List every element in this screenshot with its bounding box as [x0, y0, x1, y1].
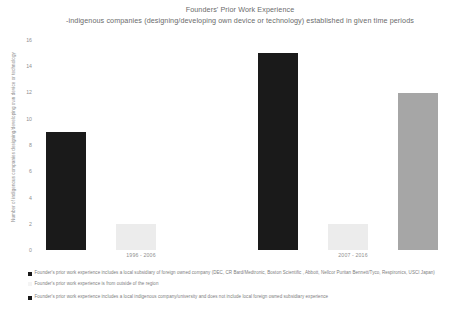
y-tick-8: 8 [16, 142, 32, 148]
bar-group-2007-2016 [258, 40, 458, 250]
legend-item-2[interactable]: Founder's prior work experience is from … [28, 281, 468, 288]
bar-group-1996-2006 [46, 40, 236, 250]
legend-label-2: Founder's prior work experience is from … [35, 281, 159, 288]
legend-item-1[interactable]: Founder's prior work experience includes… [28, 270, 468, 277]
chart-title-line-2: -indigenous companies (designing/develop… [40, 15, 440, 26]
y-axis-tick-labels: 16 14 12 10 8 6 4 2 0 [16, 40, 32, 250]
x-label-1996-2006: 1996 - 2006 [96, 252, 186, 258]
legend-item-3[interactable]: Founder's prior work experience includes… [28, 294, 468, 301]
bar-series1-1996-2006[interactable] [46, 132, 86, 250]
chart-title: Founders' Prior Work Experience -indigen… [40, 4, 440, 26]
y-tick-4: 4 [16, 195, 32, 201]
legend-swatch-icon-1 [28, 272, 32, 276]
legend-label-3: Founder's prior work experience includes… [35, 294, 329, 301]
legend-label-1: Founder's prior work experience includes… [35, 270, 435, 277]
y-tick-2: 2 [16, 221, 32, 227]
y-tick-14: 14 [16, 63, 32, 69]
chart-legend: Founder's prior work experience includes… [28, 270, 468, 305]
x-label-2007-2016: 2007 - 2016 [308, 252, 398, 258]
legend-swatch-icon-2 [28, 282, 32, 286]
chart-title-line-1: Founders' Prior Work Experience [40, 4, 440, 15]
y-tick-6: 6 [16, 168, 32, 174]
bar-series3-2007-2016[interactable] [398, 93, 438, 251]
bar-series2-1996-2006[interactable] [116, 224, 156, 250]
y-tick-12: 12 [16, 89, 32, 95]
legend-swatch-icon-3 [28, 296, 32, 300]
plot-area: Number of indigenous companies designing… [0, 40, 474, 270]
bar-series1-2007-2016[interactable] [258, 53, 298, 250]
y-tick-16: 16 [16, 37, 32, 43]
bar-series2-2007-2016[interactable] [328, 224, 368, 250]
bars-area [36, 40, 468, 250]
y-tick-0: 0 [16, 247, 32, 253]
y-tick-10: 10 [16, 116, 32, 122]
x-axis-category-labels: 1996 - 2006 2007 - 2016 [36, 252, 468, 266]
